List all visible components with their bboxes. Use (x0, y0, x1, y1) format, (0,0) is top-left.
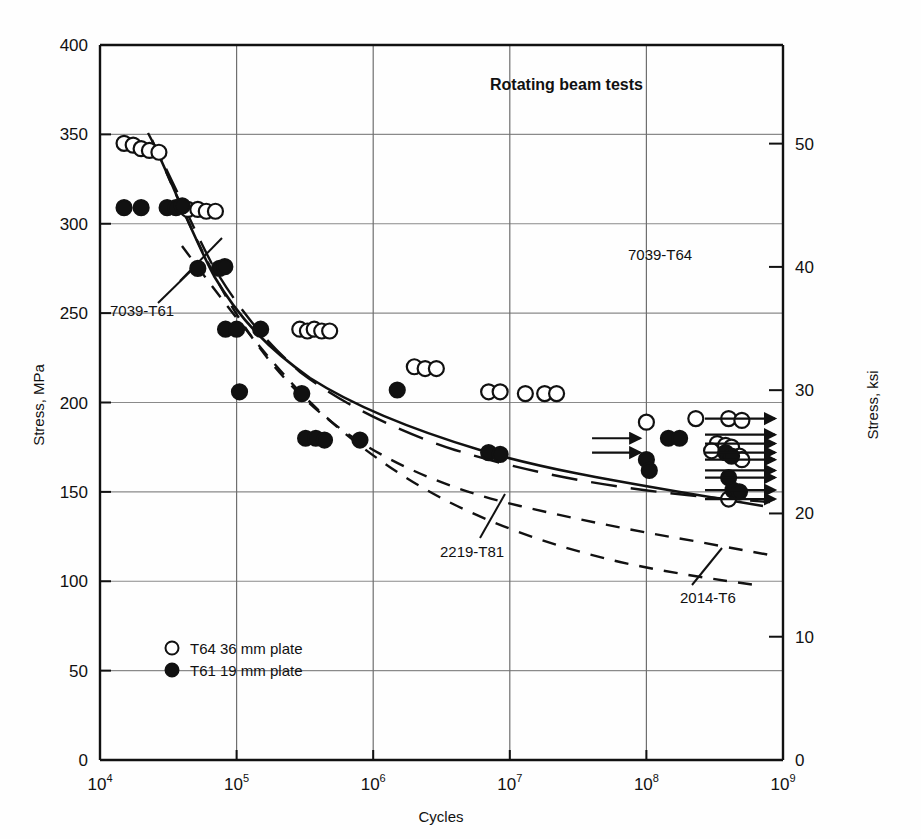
chart-title: Rotating beam tests (490, 76, 643, 93)
sn-curve-chart: 050100150200250300350400 01020304050 104… (0, 0, 921, 839)
y-ticklabel-left: 400 (60, 36, 88, 55)
y-ticklabel-right: 10 (795, 628, 814, 647)
legend-marker-open-circle (166, 642, 179, 655)
data-point-open (704, 443, 719, 458)
y-ticklabel-left: 150 (60, 483, 88, 502)
y-ticklabel-left: 300 (60, 215, 88, 234)
data-point-filled (134, 200, 149, 215)
data-point-filled (253, 322, 268, 337)
y-ticklabel-left: 100 (60, 572, 88, 591)
data-point-filled (352, 433, 367, 448)
data-point-open (429, 361, 444, 376)
y-ticklabel-left: 350 (60, 125, 88, 144)
y-ticklabel-left: 0 (79, 751, 88, 770)
y-ticklabel-right: 0 (795, 751, 804, 770)
y-ticklabel-right: 50 (795, 135, 814, 154)
data-point-filled (217, 259, 232, 274)
legend-label-t64: T64 36 mm plate (190, 640, 303, 657)
annotation-2219-t81: 2219-T81 (440, 543, 504, 560)
data-point-filled (175, 198, 190, 213)
chart-figure: 050100150200250300350400 01020304050 104… (0, 0, 921, 839)
data-point-filled (317, 433, 332, 448)
data-point-filled (493, 447, 508, 462)
data-point-filled (190, 261, 205, 276)
data-point-open (639, 415, 654, 430)
y-ticklabel-right: 30 (795, 381, 814, 400)
data-point-filled (642, 463, 657, 478)
x-axis-title: Cycles (418, 808, 463, 825)
data-point-open (518, 386, 533, 401)
data-point-filled (390, 382, 405, 397)
data-point-open (549, 386, 564, 401)
legend-marker-filled-circle (166, 664, 179, 677)
y-axis-left-title: Stress, MPa (30, 363, 47, 445)
legend-label-t61: T61 19 mm plate (190, 662, 303, 679)
data-point-filled (294, 386, 309, 401)
y-axis-right-title: Stress, ksi (864, 370, 881, 439)
data-point-filled (232, 384, 247, 399)
annotation-2014-t6: 2014-T6 (680, 589, 736, 606)
y-ticklabel-left: 50 (69, 662, 88, 681)
data-point-open (322, 324, 337, 339)
y-ticklabel-left: 200 (60, 394, 88, 413)
y-ticklabel-left: 250 (60, 304, 88, 323)
data-point-filled (672, 431, 687, 446)
data-point-open (734, 413, 749, 428)
data-point-open (208, 204, 223, 219)
data-point-filled (732, 484, 747, 499)
annotation-7039-t61: 7039-T61 (110, 302, 174, 319)
data-point-open (151, 145, 166, 160)
data-point-filled (117, 200, 132, 215)
data-point-filled (229, 322, 244, 337)
data-point-filled (724, 449, 739, 464)
annotation-7039-t64: 7039-T64 (628, 246, 692, 263)
y-ticklabel-right: 40 (795, 258, 814, 277)
y-ticklabel-right: 20 (795, 504, 814, 523)
data-point-open (688, 411, 703, 426)
data-point-open (493, 384, 508, 399)
